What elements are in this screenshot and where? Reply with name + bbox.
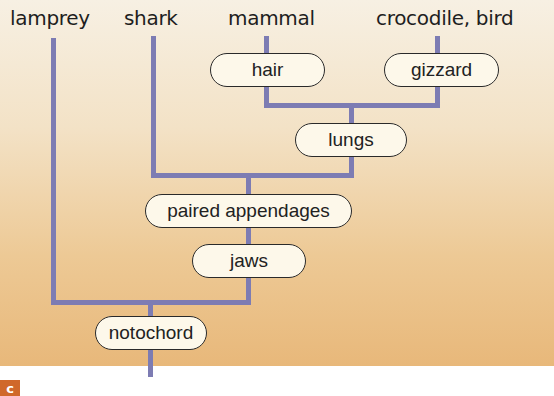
branch-lamprey [51, 38, 56, 305]
taxon-label-lamprey: lamprey [10, 6, 90, 30]
taxon-label-shark: shark [124, 6, 178, 30]
character-notochord: notochord [95, 316, 207, 350]
taxon-label-crocodile-bird: crocodile, bird [376, 6, 513, 30]
junction-gnathostomes [151, 173, 354, 178]
character-jaws: jaws [192, 244, 306, 278]
branch-gnathostome-stem [246, 173, 251, 304]
character-lungs: lungs [295, 123, 407, 157]
taxon-label-mammal: mammal [228, 6, 315, 30]
branch-shark [151, 36, 156, 178]
character-hair: hair [210, 53, 325, 87]
character-paired-appendages: paired appendages [145, 194, 352, 228]
panel-label-badge: c [0, 380, 20, 396]
character-gizzard: gizzard [384, 53, 499, 87]
